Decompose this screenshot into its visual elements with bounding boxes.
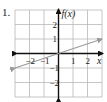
y-tick-label: 1	[53, 34, 58, 44]
x-tick-label: −2	[26, 56, 36, 66]
function-graph: −2−11221−1−2 xf(x)	[0, 0, 107, 102]
x-tick-label: −1	[40, 56, 50, 66]
x-tick-label: 1	[71, 56, 76, 66]
y-tick-label: −1	[50, 63, 60, 73]
axis-labels: xf(x)	[62, 8, 103, 66]
y-tick-label: 2	[53, 20, 58, 30]
y-tick-label: −2	[50, 78, 60, 88]
x-tick-label: 2	[86, 56, 91, 66]
x-axis-label: x	[96, 55, 102, 66]
y-axis-label: f(x)	[62, 8, 77, 20]
